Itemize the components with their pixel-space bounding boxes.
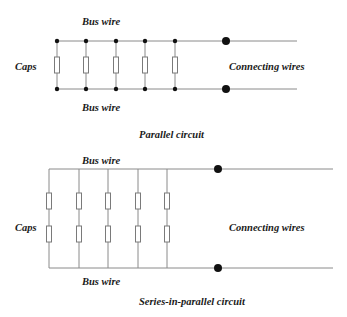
top-bus-wire-label: Bus wire	[82, 156, 120, 167]
capacitor-branch	[165, 169, 170, 268]
caps-label: Caps	[15, 223, 37, 234]
terminal-dot	[222, 85, 230, 93]
capacitor-branch	[106, 169, 111, 268]
connecting-wires-label: Connecting wires	[229, 223, 305, 234]
capacitor-branch	[136, 169, 141, 268]
capacitor-icon	[106, 193, 111, 209]
junction-dot	[114, 87, 118, 91]
capacitor-icon	[77, 226, 82, 242]
capacitor-branch	[114, 39, 119, 91]
capacitor-icon	[55, 57, 60, 73]
bottom-bus-wire-label: Bus wire	[82, 277, 120, 288]
junction-dot	[84, 39, 88, 43]
junction-dot	[55, 87, 59, 91]
junction-dot	[84, 87, 88, 91]
series-parallel-circuit-caption: Series-in-parallel circuit	[139, 297, 245, 308]
capacitor-icon	[136, 193, 141, 209]
terminal-dot	[214, 165, 222, 173]
junction-dot	[55, 39, 59, 43]
capacitor-icon	[47, 193, 52, 209]
capacitor-icon	[143, 57, 148, 73]
capacitor-icon	[165, 226, 170, 242]
junction-dot	[173, 39, 177, 43]
capacitor-icon	[84, 57, 89, 73]
capacitor-branch	[55, 39, 60, 91]
junction-dot	[143, 39, 147, 43]
top-bus-wire-label: Bus wire	[82, 17, 120, 28]
connecting-wires-label: Connecting wires	[229, 62, 305, 73]
junction-dot	[173, 87, 177, 91]
capacitor-icon	[165, 193, 170, 209]
parallel-circuit-caption: Parallel circuit	[139, 130, 204, 141]
capacitor-icon	[136, 226, 141, 242]
parallel-circuit-diagram	[0, 0, 347, 317]
capacitor-icon	[77, 193, 82, 209]
capacitor-icon	[114, 57, 119, 73]
bottom-bus-wire-label: Bus wire	[82, 103, 120, 114]
capacitor-branch	[47, 169, 52, 268]
series-parallel-circuit	[47, 165, 334, 272]
junction-dot	[143, 87, 147, 91]
caps-label: Caps	[15, 62, 37, 73]
terminal-dot	[214, 264, 222, 272]
diagram-canvas: Bus wire Caps Connecting wires Bus wire …	[0, 0, 347, 317]
capacitor-icon	[173, 57, 178, 73]
junction-dot	[114, 39, 118, 43]
capacitor-branch	[173, 39, 178, 91]
capacitor-branch	[84, 39, 89, 91]
capacitor-icon	[106, 226, 111, 242]
terminal-dot	[222, 37, 230, 45]
capacitor-branch	[77, 169, 82, 268]
capacitor-icon	[47, 226, 52, 242]
capacitor-branch	[143, 39, 148, 91]
